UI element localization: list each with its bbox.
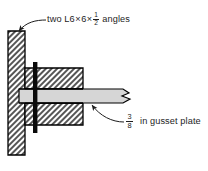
fraction-numerator: 3 (126, 113, 133, 121)
fraction-denominator: 8 (126, 121, 133, 130)
angles-callout-label: two L6×6×12 angles (47, 12, 130, 26)
gusset-label-suffix: in gusset plate (140, 116, 201, 126)
angles-leader-line (19, 20, 46, 31)
angles-thickness-fraction: 12 (93, 12, 99, 26)
gusset-leader-line (92, 105, 124, 122)
fraction-denominator: 2 (93, 19, 99, 27)
angles-label-prefix: two L6 (47, 14, 75, 24)
multiply-sign-2: × (86, 14, 92, 24)
gusset-callout-label: in gusset plate (140, 117, 201, 127)
gusset-thickness-fraction: 3 8 (126, 113, 133, 130)
drawing-canvas: two L6×6×12 angles 3 8 in gusset plate (0, 0, 208, 171)
fraction-numerator: 1 (93, 12, 99, 19)
angles-label-suffix: angles (102, 14, 130, 24)
bolt-line (33, 62, 37, 133)
